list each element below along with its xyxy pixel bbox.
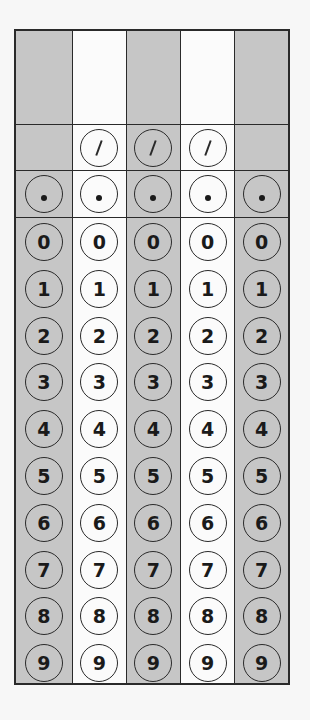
digit-bubble[interactable]: 2 — [80, 317, 118, 355]
digit-bubble[interactable]: 8 — [25, 597, 63, 635]
digit-bubbles: 0123456789 — [127, 218, 180, 683]
digit-bubble[interactable]: 8 — [243, 597, 281, 635]
fraction-bar-bubble[interactable] — [134, 129, 172, 167]
digit-bubble[interactable]: 8 — [80, 597, 118, 635]
digit-bubble[interactable]: 4 — [134, 410, 172, 448]
digit-bubbles: 0123456789 — [16, 218, 72, 683]
write-in-box-5 — [235, 31, 288, 125]
digit-bubble[interactable]: 1 — [243, 270, 281, 308]
digit-bubble[interactable]: 3 — [243, 363, 281, 401]
decimal-point-row — [181, 171, 235, 218]
digit-bubbles: 0123456789 — [73, 218, 127, 683]
digit-bubble[interactable]: 5 — [80, 457, 118, 495]
dot-icon — [41, 195, 47, 201]
fraction-bar-row — [16, 125, 72, 171]
digit-bubble[interactable]: 0 — [189, 223, 227, 261]
dot-icon — [259, 195, 265, 201]
digit-bubble[interactable]: 3 — [189, 363, 227, 401]
digit-bubble[interactable]: 6 — [25, 504, 63, 542]
digit-bubble[interactable]: 0 — [134, 223, 172, 261]
decimal-point-row — [235, 171, 288, 218]
slash-icon — [204, 140, 211, 156]
answer-column-5: 0123456789 — [235, 31, 288, 683]
digit-bubble[interactable]: 9 — [189, 644, 227, 682]
digit-bubble[interactable]: 9 — [25, 644, 63, 682]
digit-bubble[interactable]: 2 — [25, 317, 63, 355]
answer-column-2: 0123456789 — [73, 31, 128, 683]
write-in-box-4[interactable] — [181, 31, 235, 125]
dot-icon — [96, 195, 102, 201]
decimal-point-bubble[interactable] — [243, 175, 281, 213]
digit-bubble[interactable]: 7 — [243, 551, 281, 589]
digit-bubble[interactable]: 9 — [243, 644, 281, 682]
decimal-point-bubble[interactable] — [134, 175, 172, 213]
digit-bubble[interactable]: 7 — [134, 551, 172, 589]
decimal-point-bubble[interactable] — [80, 175, 118, 213]
digit-bubble[interactable]: 9 — [80, 644, 118, 682]
digit-bubble[interactable]: 5 — [25, 457, 63, 495]
digit-bubble[interactable]: 5 — [134, 457, 172, 495]
decimal-point-row — [127, 171, 180, 218]
digit-bubble[interactable]: 6 — [80, 504, 118, 542]
fraction-bar-bubble[interactable] — [189, 129, 227, 167]
digit-bubble[interactable]: 3 — [80, 363, 118, 401]
digit-bubble[interactable]: 4 — [25, 410, 63, 448]
fraction-bar-row — [235, 125, 288, 171]
decimal-point-row — [73, 171, 127, 218]
answer-column-1: 0123456789 — [16, 31, 73, 683]
digit-bubble[interactable]: 2 — [134, 317, 172, 355]
slash-icon — [96, 140, 103, 156]
digit-bubbles: 0123456789 — [235, 218, 288, 683]
digit-bubble[interactable]: 4 — [243, 410, 281, 448]
digit-bubble[interactable]: 7 — [25, 551, 63, 589]
write-in-box-1 — [16, 31, 72, 125]
fraction-bar-bubble[interactable] — [80, 129, 118, 167]
digit-bubble[interactable]: 6 — [134, 504, 172, 542]
decimal-point-row — [16, 171, 72, 218]
digit-bubble[interactable]: 1 — [25, 270, 63, 308]
answer-column-3: 0123456789 — [127, 31, 181, 683]
slash-icon — [150, 140, 157, 156]
write-in-box-2[interactable] — [73, 31, 127, 125]
grid-in-answer-grid: 0123456789012345678901234567890123456789… — [14, 29, 290, 685]
digit-bubble[interactable]: 2 — [243, 317, 281, 355]
digit-bubble[interactable]: 8 — [189, 597, 227, 635]
dot-icon — [150, 195, 156, 201]
digit-bubble[interactable]: 1 — [189, 270, 227, 308]
digit-bubble[interactable]: 3 — [25, 363, 63, 401]
digit-bubble[interactable]: 6 — [189, 504, 227, 542]
digit-bubble[interactable]: 5 — [243, 457, 281, 495]
digit-bubble[interactable]: 5 — [189, 457, 227, 495]
digit-bubble[interactable]: 1 — [134, 270, 172, 308]
fraction-bar-row — [73, 125, 127, 171]
digit-bubble[interactable]: 4 — [80, 410, 118, 448]
digit-bubble[interactable]: 3 — [134, 363, 172, 401]
digit-bubble[interactable]: 7 — [80, 551, 118, 589]
dot-icon — [205, 195, 211, 201]
digit-bubble[interactable]: 7 — [189, 551, 227, 589]
digit-bubble[interactable]: 2 — [189, 317, 227, 355]
decimal-point-bubble[interactable] — [189, 175, 227, 213]
digit-bubbles: 0123456789 — [181, 218, 235, 683]
write-in-box-3 — [127, 31, 180, 125]
fraction-bar-row — [181, 125, 235, 171]
answer-column-4: 0123456789 — [181, 31, 236, 683]
digit-bubble[interactable]: 0 — [25, 223, 63, 261]
digit-bubble[interactable]: 1 — [80, 270, 118, 308]
digit-bubble[interactable]: 0 — [243, 223, 281, 261]
digit-bubble[interactable]: 8 — [134, 597, 172, 635]
digit-bubble[interactable]: 0 — [80, 223, 118, 261]
digit-bubble[interactable]: 9 — [134, 644, 172, 682]
decimal-point-bubble[interactable] — [25, 175, 63, 213]
digit-bubble[interactable]: 6 — [243, 504, 281, 542]
digit-bubble[interactable]: 4 — [189, 410, 227, 448]
fraction-bar-row — [127, 125, 180, 171]
